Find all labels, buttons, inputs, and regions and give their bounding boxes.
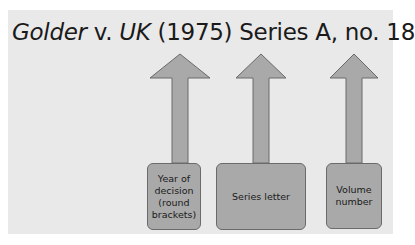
arrow-series xyxy=(236,54,286,163)
arrow-volume xyxy=(330,54,378,163)
arrow-year xyxy=(150,54,210,163)
box-volume-number: Volume number xyxy=(326,163,382,229)
box-series-letter: Series letter xyxy=(216,163,306,230)
box-year-of-decision: Year of decision (round brackets) xyxy=(147,163,201,230)
